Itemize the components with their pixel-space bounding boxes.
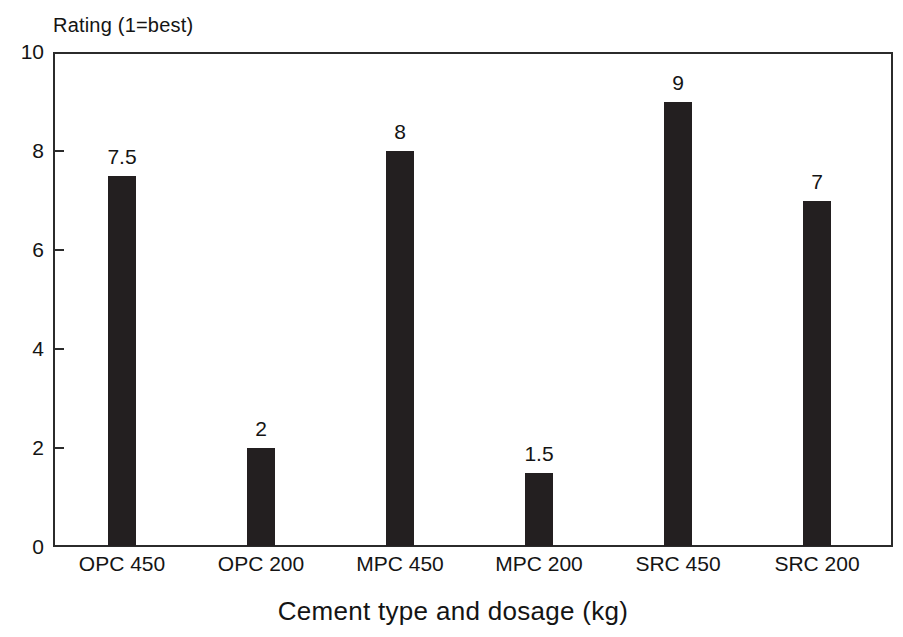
y-axis-title: Rating (1=best) [53,14,193,37]
y-tick-label: 2 [2,437,44,458]
y-tick-label: 6 [2,239,44,260]
bar-value-label: 2 [216,418,306,439]
x-tick-label: OPC 450 [57,553,187,574]
bar [247,448,275,546]
x-tick-label: SRC 450 [613,553,743,574]
x-tick-label: MPC 200 [474,553,604,574]
bar [525,473,553,546]
y-tick-mark [53,447,64,449]
bar [664,102,692,547]
bar-chart: Rating (1=best) 0246810 OPC 450OPC 200MP… [0,0,903,637]
bar-value-label: 7.5 [77,146,167,167]
y-tick-label: 10 [2,41,44,62]
bar-value-label: 9 [633,72,723,93]
y-tick-label: 0 [2,536,44,557]
bar-value-label: 8 [355,121,445,142]
x-tick-label: OPC 200 [196,553,326,574]
bar [803,201,831,547]
y-tick-label: 8 [2,140,44,161]
y-tick-mark [53,249,64,251]
bar [386,151,414,546]
y-tick-label: 4 [2,338,44,359]
y-tick-mark [53,348,64,350]
x-tick-label: SRC 200 [752,553,882,574]
plot-area [53,52,893,547]
y-tick-mark [53,150,64,152]
x-axis-title: Cement type and dosage (kg) [53,596,853,627]
bar-value-label: 7 [772,171,862,192]
bar [108,176,136,546]
bar-value-label: 1.5 [494,443,584,464]
x-tick-label: MPC 450 [335,553,465,574]
